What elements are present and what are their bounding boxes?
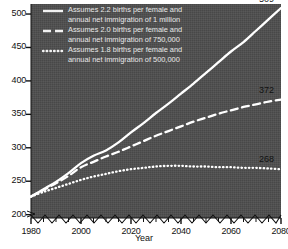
chart-legend: Assumes 2.2 births per female and annual… xyxy=(42,6,214,66)
x-axis-title: Year xyxy=(0,233,288,243)
legend-item-text: Assumes 2.2 births per female and annual… xyxy=(68,5,182,24)
y-tick-label-450: 450 xyxy=(0,41,26,51)
legend-item: Assumes 2.0 births per female and annual… xyxy=(42,26,214,46)
legend-item-text: Assumes 1.8 births per female and annual… xyxy=(68,45,182,64)
legend-line-2: annual net immigration of 750,000 xyxy=(68,35,182,45)
solid-line-swatch xyxy=(42,6,64,26)
legend-line-1: Assumes 2.0 births per female and xyxy=(68,25,182,35)
endpoint-label-solid: 509 xyxy=(259,0,274,4)
legend-line-1: Assumes 1.8 births per female and xyxy=(68,45,182,55)
legend-line-1: Assumes 2.2 births per female and xyxy=(68,5,182,15)
dotted-line-swatch xyxy=(42,46,64,66)
y-tick-label-300: 300 xyxy=(0,142,26,152)
endpoint-label-dotted: 268 xyxy=(259,154,274,164)
dashed-line-swatch xyxy=(42,26,64,46)
endpoint-label-dashed: 372 xyxy=(259,85,274,95)
y-tick-label-350: 350 xyxy=(0,108,26,118)
axis-break-symbol xyxy=(27,211,281,223)
y-tick-label-250: 250 xyxy=(0,175,26,185)
legend-line-2: annual net immigration of 1 million xyxy=(68,15,182,25)
legend-item: Assumes 2.2 births per female and annual… xyxy=(42,6,214,26)
legend-item-text: Assumes 2.0 births per female and annual… xyxy=(68,25,182,44)
legend-item: Assumes 1.8 births per female and annual… xyxy=(42,46,214,66)
legend-line-2: annual net immigration of 500,000 xyxy=(68,55,182,65)
chart-figure: 200250300350400450500 198020002020204020… xyxy=(0,0,288,249)
y-tick-label-500: 500 xyxy=(0,8,26,18)
y-tick-label-400: 400 xyxy=(0,75,26,85)
y-tick-label-200: 200 xyxy=(0,209,26,219)
series-line-dotted xyxy=(31,166,281,197)
